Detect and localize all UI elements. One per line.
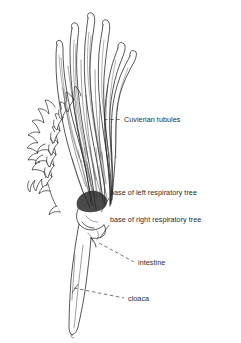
anatomical-illustration: Cuvierian tubules base of left respirato… [0, 0, 241, 343]
label-base-left-respiratory-tree: base of left respiratory tree [110, 188, 197, 197]
figure-background [0, 0, 241, 343]
label-cloaca: cloaca [128, 294, 149, 303]
label-cuvierian-tubules: Cuvierian tubules [124, 115, 181, 124]
label-base-right-respiratory-tree: base of right respiratory tree [110, 215, 201, 224]
label-intestine: intestine [138, 258, 165, 267]
